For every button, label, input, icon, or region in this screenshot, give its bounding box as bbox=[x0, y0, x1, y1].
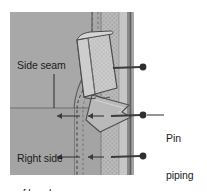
label-pin-piping-to-band: Pin piping to band bbox=[166, 107, 193, 191]
label-pin-piping-line1: Pin bbox=[166, 132, 193, 144]
piping-strip-light bbox=[119, 12, 127, 175]
label-pin-piping-line2: piping bbox=[166, 169, 193, 181]
label-side-seam: Side seam bbox=[17, 60, 66, 72]
piping-strip-edge bbox=[127, 12, 130, 175]
label-right-side-of-band: Right side of band bbox=[17, 130, 63, 191]
label-right-side-of-band-line2: of band bbox=[17, 188, 63, 192]
figure-root: Side seam Right side of band Pin piping … bbox=[0, 0, 207, 191]
label-right-side-of-band-line1: Right side bbox=[17, 153, 63, 165]
